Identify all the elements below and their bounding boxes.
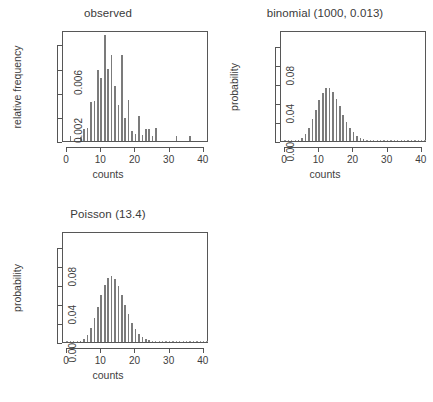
bar	[128, 100, 130, 141]
x-axis-label-observed: counts	[0, 168, 216, 180]
plot-area-observed	[62, 31, 208, 142]
x-tick-label: 10	[95, 154, 106, 165]
bar	[189, 341, 190, 342]
bar	[308, 128, 310, 141]
bar	[291, 140, 292, 141]
bar	[118, 105, 120, 141]
bar	[411, 140, 412, 141]
bar	[111, 55, 113, 141]
bar	[90, 328, 92, 342]
bar	[124, 305, 126, 342]
x-axis-tick	[134, 348, 135, 353]
bar	[138, 116, 140, 141]
bar	[80, 341, 81, 342]
bar	[100, 295, 102, 342]
chart-title-observed: observed	[0, 7, 216, 19]
y-tick-label: 0.04	[67, 305, 78, 324]
bar	[83, 339, 85, 342]
x-axis-tick	[318, 147, 319, 152]
bar	[77, 341, 78, 342]
bar	[322, 93, 324, 141]
y-tick-label: 0.002	[73, 118, 84, 143]
y-axis-label-binomial: probability	[227, 31, 241, 142]
x-axis-binomial: 010203040	[280, 142, 426, 143]
y-axis-tick	[275, 47, 280, 48]
bar	[383, 140, 384, 141]
bar	[387, 140, 388, 141]
bar	[196, 341, 197, 342]
bar	[70, 136, 72, 141]
bar	[94, 101, 96, 141]
bar	[339, 106, 341, 141]
y-axis-tick	[57, 45, 62, 46]
x-axis-tick	[169, 348, 170, 353]
x-tick-label: 10	[313, 154, 324, 165]
bar	[87, 128, 89, 141]
bar	[83, 129, 85, 141]
bar	[370, 140, 371, 141]
bar	[128, 314, 130, 342]
bar	[349, 128, 351, 141]
bar	[346, 122, 348, 141]
x-axis-tick	[66, 147, 67, 152]
y-axis-tick	[57, 267, 62, 268]
chart-title-poisson: Poisson (13.4)	[0, 208, 216, 220]
x-axis-tick	[203, 348, 204, 353]
bar	[97, 307, 99, 342]
y-axis-label-observed: relative frequency	[10, 31, 24, 142]
bar	[284, 140, 285, 141]
x-tick-label: 40	[197, 355, 208, 366]
plot-area-binomial	[280, 31, 426, 142]
x-axis-observed: 010203040	[62, 142, 208, 143]
bar	[404, 140, 405, 141]
bar	[183, 341, 184, 342]
bar	[145, 129, 147, 141]
y-axis-tick	[275, 66, 280, 67]
y-axis-tick	[57, 286, 62, 287]
bar	[315, 110, 317, 141]
y-axis-tick	[275, 85, 280, 86]
y-axis-tick	[57, 94, 62, 95]
y-axis-tick	[57, 248, 62, 249]
bar	[90, 102, 92, 141]
bar	[329, 88, 331, 141]
x-axis-tick	[387, 147, 388, 152]
x-axis-tick	[352, 147, 353, 152]
bars-poisson	[63, 233, 207, 342]
bar	[288, 140, 289, 141]
x-tick-label: 30	[381, 154, 392, 165]
bar	[131, 323, 133, 342]
x-axis-label-binomial: counts	[217, 168, 433, 180]
bars-observed	[63, 32, 207, 141]
x-tick-label: 30	[163, 355, 174, 366]
bar	[169, 341, 170, 342]
bar	[100, 78, 102, 141]
plot-area-poisson	[62, 232, 208, 343]
bar	[152, 341, 153, 342]
bar	[312, 119, 314, 141]
bar	[394, 140, 395, 141]
bar	[305, 134, 307, 141]
bar	[165, 341, 166, 342]
bar	[94, 318, 96, 342]
figure-panel-grid: observed relative frequency 0.0020.006 0…	[0, 0, 433, 402]
bar	[114, 279, 116, 342]
bar	[332, 92, 334, 141]
bar	[360, 138, 362, 141]
bar	[104, 285, 106, 342]
y-axis-label-poisson: probability	[10, 232, 24, 343]
bar	[131, 131, 133, 141]
bar	[142, 135, 144, 141]
x-axis-tick	[421, 147, 422, 152]
bar	[97, 70, 99, 141]
bar	[397, 140, 398, 141]
bar	[148, 129, 150, 141]
y-axis-tick	[275, 123, 280, 124]
chart-panel-poisson: Poisson (13.4) probability 0.000.040.08 …	[0, 201, 216, 402]
y-axis-line	[57, 248, 58, 343]
y-axis-tick	[57, 324, 62, 325]
bar	[206, 341, 207, 342]
chart-panel-observed: observed relative frequency 0.0020.006 0…	[0, 0, 216, 201]
bar	[176, 136, 178, 141]
x-tick-label: 10	[95, 355, 106, 366]
